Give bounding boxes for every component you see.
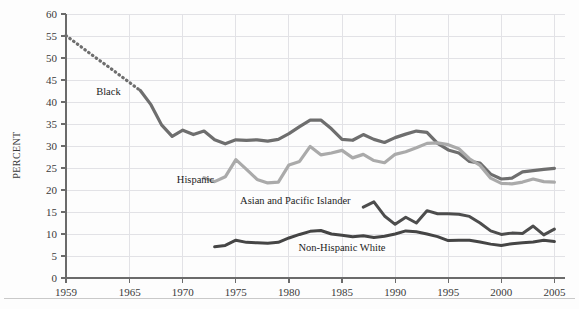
x-tick-label: 1990 bbox=[384, 286, 407, 298]
y-axis-tick-labels: 051015202530354045505560 bbox=[46, 8, 58, 284]
y-tick-label: 55 bbox=[46, 30, 58, 42]
x-tick-label: 1975 bbox=[225, 286, 248, 298]
x-tick-label: 2005 bbox=[543, 286, 566, 298]
y-tick-label: 30 bbox=[46, 140, 58, 152]
gridlines bbox=[66, 14, 565, 278]
y-tick-label: 50 bbox=[46, 52, 58, 64]
y-tick-label: 20 bbox=[46, 184, 58, 196]
x-tick-label: 1985 bbox=[331, 286, 354, 298]
line-chart: 051015202530354045505560 195919651970197… bbox=[0, 0, 579, 309]
data-series bbox=[66, 36, 554, 247]
x-tick-label: 1970 bbox=[172, 286, 195, 298]
x-tick-label: 1965 bbox=[119, 286, 142, 298]
y-tick-label: 25 bbox=[46, 162, 58, 174]
x-axis-tick-labels: 1959196519701975198019851990199520002005 bbox=[55, 286, 566, 298]
y-tick-label: 35 bbox=[46, 118, 58, 130]
series-label-hispanic: Hispanic bbox=[177, 174, 215, 185]
series-label-asian-and-pacific-islander: Asian and Pacific Islander bbox=[240, 195, 351, 206]
series-line-dashed-black bbox=[66, 36, 140, 91]
series-line-asian-and-pacific-islander bbox=[363, 202, 554, 235]
y-tick-label: 45 bbox=[46, 74, 58, 86]
y-axis-title: PERCENT bbox=[11, 131, 22, 178]
series-line-black bbox=[140, 91, 554, 179]
y-tick-label: 60 bbox=[46, 8, 58, 20]
y-tick-label: 40 bbox=[46, 96, 58, 108]
chart-container: 051015202530354045505560 195919651970197… bbox=[0, 0, 579, 309]
y-tick-label: 0 bbox=[52, 272, 58, 284]
x-tick-label: 1959 bbox=[55, 286, 78, 298]
x-tick-label: 1995 bbox=[437, 286, 460, 298]
x-tick-label: 2000 bbox=[490, 286, 513, 298]
series-label-black: Black bbox=[96, 86, 121, 97]
y-tick-label: 5 bbox=[52, 250, 58, 262]
series-label-non-hispanic-white: Non-Hispanic White bbox=[299, 242, 386, 253]
y-tick-label: 10 bbox=[46, 228, 58, 240]
y-tick-label: 15 bbox=[46, 206, 58, 218]
x-tick-label: 1980 bbox=[278, 286, 301, 298]
